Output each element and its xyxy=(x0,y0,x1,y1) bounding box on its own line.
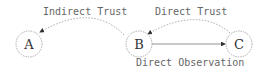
node-c: C xyxy=(226,31,252,57)
edge-direct-trust xyxy=(148,20,230,34)
edge-indirect-trust xyxy=(40,18,124,35)
node-b: B xyxy=(126,31,152,57)
edge-label-direct-trust: Direct Trust xyxy=(155,6,227,17)
edge-label-direct-observation: Direct Observation xyxy=(136,57,244,68)
node-c-label: C xyxy=(234,37,244,52)
edge-label-indirect-trust: Indirect Trust xyxy=(43,6,127,17)
node-a-label: A xyxy=(23,37,34,52)
node-a: A xyxy=(16,31,42,57)
trust-diagram: Indirect Trust Direct Trust Direct Obser… xyxy=(0,0,269,77)
node-b-label: B xyxy=(134,37,144,52)
